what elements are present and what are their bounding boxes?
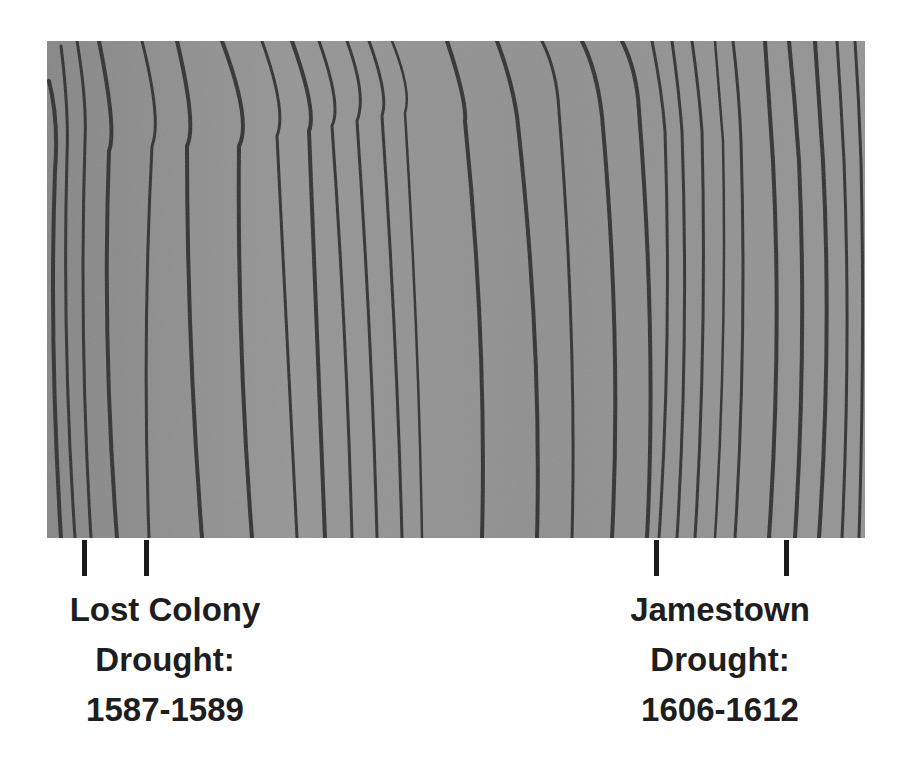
label-line: 1587-1589 xyxy=(30,685,300,735)
tree-rings-graphic xyxy=(47,41,865,538)
lost-colony-drought-label: Lost Colony Drought: 1587-1589 xyxy=(30,585,300,735)
label-line: Lost Colony xyxy=(30,585,300,635)
label-line: Drought: xyxy=(30,635,300,685)
jamestown-drought-label: Jamestown Drought: 1606-1612 xyxy=(590,585,850,735)
lost-colony-end-marker xyxy=(144,540,149,576)
label-line: Jamestown xyxy=(590,585,850,635)
lost-colony-start-marker xyxy=(82,540,87,576)
jamestown-start-marker xyxy=(654,540,659,576)
label-line: Drought: xyxy=(590,635,850,685)
jamestown-end-marker xyxy=(784,540,789,576)
tree-ring-photo xyxy=(47,41,865,538)
label-line: 1606-1612 xyxy=(590,685,850,735)
